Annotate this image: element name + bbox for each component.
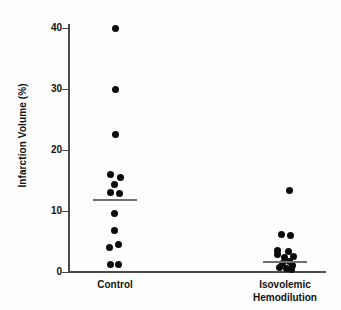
data-point [287, 232, 294, 239]
mean-line [263, 261, 307, 263]
data-point [278, 231, 285, 238]
scatter-plot-figure: Infarction Volume (%) 010203040 ControlI… [0, 0, 341, 310]
data-point [286, 187, 293, 194]
series-group [0, 0, 341, 310]
data-point [276, 264, 283, 271]
data-point [274, 251, 281, 258]
data-point [288, 266, 295, 273]
